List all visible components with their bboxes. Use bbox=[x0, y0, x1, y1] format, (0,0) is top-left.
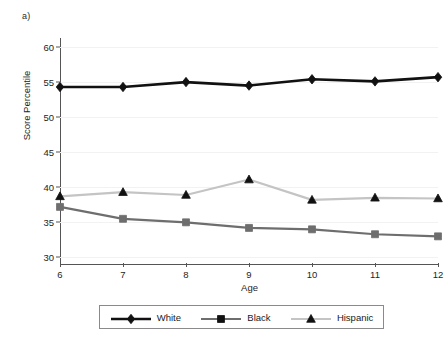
figure-panel-a: a) Score Percentile Age 3035404550556067… bbox=[0, 0, 447, 344]
x-tick-mark bbox=[312, 263, 313, 267]
x-tick-label: 11 bbox=[370, 269, 380, 280]
legend-label-white: White bbox=[157, 312, 181, 323]
legend-label-black: Black bbox=[247, 312, 270, 323]
x-tick-label: 8 bbox=[183, 269, 188, 280]
data-point-black bbox=[372, 231, 379, 238]
x-tick-mark bbox=[123, 263, 124, 267]
legend-item-hispanic: Hispanic bbox=[290, 311, 373, 323]
x-tick-mark bbox=[60, 263, 61, 267]
x-tick-mark bbox=[438, 263, 439, 267]
data-point-hispanic bbox=[245, 175, 254, 183]
x-tick-mark bbox=[249, 263, 250, 267]
legend-swatch-hispanic bbox=[290, 311, 332, 323]
data-point-white bbox=[182, 77, 190, 86]
x-tick-mark bbox=[375, 263, 376, 267]
data-point-black bbox=[435, 233, 442, 240]
data-point-white bbox=[434, 72, 442, 81]
x-tick-label: 7 bbox=[120, 269, 125, 280]
y-tick-label: 40 bbox=[43, 182, 60, 193]
data-point-white bbox=[371, 77, 379, 86]
data-point-black bbox=[57, 203, 64, 210]
data-point-white bbox=[308, 75, 316, 84]
y-tick-label: 60 bbox=[43, 42, 60, 53]
x-tick-label: 12 bbox=[433, 269, 444, 280]
x-tick-label: 9 bbox=[246, 269, 251, 280]
y-tick-label: 50 bbox=[43, 112, 60, 123]
chart-legend: White Black Hispanic bbox=[99, 305, 384, 329]
legend-label-hispanic: Hispanic bbox=[337, 312, 373, 323]
y-tick-label: 45 bbox=[43, 147, 60, 158]
data-point-black bbox=[120, 215, 127, 222]
data-point-white bbox=[245, 81, 253, 90]
y-axis-title: Score Percentile bbox=[21, 46, 32, 166]
data-point-black bbox=[246, 224, 253, 231]
legend-item-black: Black bbox=[200, 311, 270, 323]
series-line-black bbox=[60, 207, 438, 236]
x-axis-title: Age bbox=[60, 282, 439, 293]
plot-area: 303540455055606789101112 bbox=[60, 40, 438, 263]
data-point-black bbox=[309, 226, 316, 233]
data-point-black bbox=[183, 219, 190, 226]
panel-label: a) bbox=[22, 11, 30, 21]
y-tick-label: 35 bbox=[43, 217, 60, 228]
legend-item-white: White bbox=[110, 311, 181, 323]
y-tick-label: 30 bbox=[43, 252, 60, 263]
legend-swatch-black bbox=[200, 311, 242, 323]
x-tick-mark bbox=[186, 263, 187, 267]
legend-swatch-white bbox=[110, 311, 152, 323]
data-point-white bbox=[119, 82, 127, 91]
series-layer bbox=[60, 40, 438, 263]
x-tick-label: 10 bbox=[307, 269, 318, 280]
x-tick-label: 6 bbox=[57, 269, 62, 280]
